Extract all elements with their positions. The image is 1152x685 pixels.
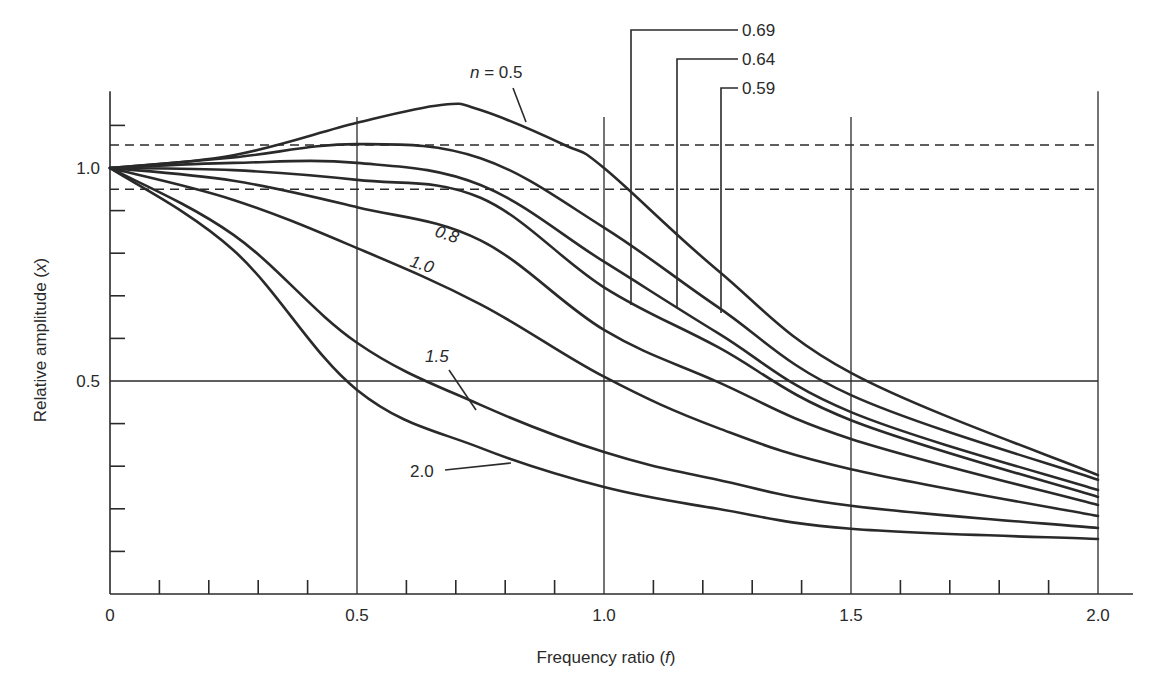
label-15: 1.5 <box>425 347 449 366</box>
leader-15 <box>449 370 476 410</box>
label-20: 2.0 <box>410 462 434 481</box>
leader-069 <box>631 30 738 305</box>
x-axis-title: Frequency ratio (f) <box>537 648 676 667</box>
tick-labels: 00.51.01.52.00.51.0 <box>76 159 1109 625</box>
leader-n05 <box>513 88 526 122</box>
x-tick-label: 1.0 <box>592 606 616 625</box>
y-axis-title: Relative amplitude (x) <box>31 258 50 422</box>
x-tick-label: 0.5 <box>345 606 369 625</box>
leader-20 <box>445 463 511 470</box>
chart: 00.51.01.52.00.51.0 n = 0.5 0.69 0.64 0.… <box>0 0 1152 685</box>
label-064: 0.64 <box>742 50 775 69</box>
x-tick-label: 1.5 <box>839 606 863 625</box>
label-059: 0.59 <box>742 79 775 98</box>
label-069: 0.69 <box>742 21 775 40</box>
y-tick-label: 1.0 <box>76 159 100 178</box>
leader-064 <box>677 59 738 308</box>
x-tick-label: 0 <box>105 606 114 625</box>
x-tick-label: 2.0 <box>1086 606 1110 625</box>
y-tick-label: 0.5 <box>76 372 100 391</box>
label-n05: n = 0.5 <box>470 63 522 82</box>
label-08: 0.8 <box>433 222 462 248</box>
label-10: 1.0 <box>408 252 437 278</box>
